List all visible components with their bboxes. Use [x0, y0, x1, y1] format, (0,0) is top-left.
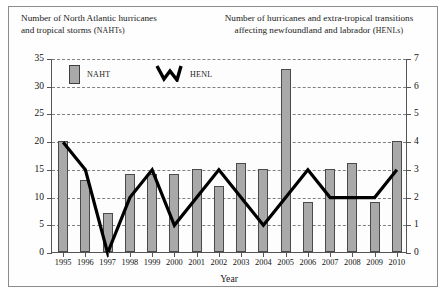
right-axis-tick-label: 5	[414, 109, 434, 119]
x-axis-tick	[219, 252, 220, 257]
left-axis-tick	[47, 198, 52, 199]
left-axis-tick-label: 0	[20, 248, 44, 258]
left-axis-tick-label: 35	[20, 54, 44, 64]
right-axis-title-line2: affecting newfoundland and labrador (	[235, 25, 376, 35]
x-axis-tick	[397, 252, 398, 257]
right-axis-tick	[406, 114, 411, 115]
x-axis-tick	[330, 252, 331, 257]
x-axis-tick	[375, 252, 376, 257]
chart-figure: Number of North Atlantic hurricanes and …	[8, 6, 438, 287]
right-axis-tick	[406, 59, 411, 60]
right-axis-tick	[406, 198, 411, 199]
right-axis-title: Number of hurricanes and extra-tropical …	[205, 13, 433, 36]
left-axis-tick-label: 5	[20, 220, 44, 230]
left-axis-tick-label: 20	[20, 137, 44, 147]
left-axis-tick-label: 30	[20, 82, 44, 92]
x-axis-title: Year	[51, 273, 407, 284]
left-axis-tick	[47, 114, 52, 115]
right-axis-tick	[406, 142, 411, 143]
right-axis-tick-label: 1	[414, 220, 434, 230]
right-axis-tick-label: 0	[414, 248, 434, 258]
left-axis-tick	[47, 253, 52, 254]
x-axis-tick	[85, 252, 86, 257]
right-axis-tick	[406, 170, 411, 171]
x-axis-tick-label: 2010	[382, 258, 412, 267]
left-axis-tick	[47, 225, 52, 226]
x-axis-tick	[286, 252, 287, 257]
x-axis-tick	[241, 252, 242, 257]
left-axis-title-abbr: NAHT	[97, 26, 119, 35]
right-axis-tick	[406, 225, 411, 226]
left-axis-title-line2: and tropical storms (	[21, 25, 97, 35]
left-axis-tick	[47, 142, 52, 143]
x-axis-tick	[63, 252, 64, 257]
legend-bar-swatch-icon	[69, 65, 80, 84]
x-axis-tick	[352, 252, 353, 257]
left-axis-tick	[47, 87, 52, 88]
x-axis-tick	[174, 252, 175, 257]
plot-inner: 05101520253035 01234567 1995199619971998…	[51, 59, 407, 253]
plot-area: 05101520253035 01234567 1995199619971998…	[51, 59, 407, 253]
left-axis-tick-label: 15	[20, 165, 44, 175]
legend-label-naht: NAHT	[87, 70, 110, 79]
right-axis-title-line1: Number of hurricanes and extra-tropical …	[225, 13, 414, 23]
right-axis-tick-label: 4	[414, 137, 434, 147]
chart-titles: Number of North Atlantic hurricanes and …	[9, 13, 437, 47]
x-axis-tick	[197, 252, 198, 257]
right-axis-tick	[406, 87, 411, 88]
legend-label-henl: HENL	[190, 70, 213, 79]
right-axis-tick-label: 7	[414, 54, 434, 64]
left-axis-tick	[47, 170, 52, 171]
right-axis-tick-label: 3	[414, 165, 434, 175]
legend-line-zigzag-icon	[155, 63, 183, 86]
left-axis-title: Number of North Atlantic hurricanes and …	[21, 13, 201, 36]
right-axis-title-abbr-tail: s)	[397, 26, 403, 35]
line-path	[63, 142, 397, 253]
left-axis-title-abbr-tail: s)	[119, 26, 125, 35]
legend-entry-naht: NAHT	[69, 63, 110, 85]
x-axis-tick	[152, 252, 153, 257]
left-axis-tick	[47, 59, 52, 60]
line-series	[52, 59, 408, 253]
x-axis-tick	[263, 252, 264, 257]
left-axis-title-line1: Number of North Atlantic hurricanes	[21, 13, 157, 23]
right-axis-tick	[406, 253, 411, 254]
x-axis-tick	[130, 252, 131, 257]
left-axis-tick-label: 10	[20, 193, 44, 203]
right-axis-tick-label: 2	[414, 193, 434, 203]
left-axis-tick-label: 25	[20, 109, 44, 119]
right-axis-tick-label: 6	[414, 82, 434, 92]
x-axis-tick	[108, 252, 109, 257]
right-axis-title-abbr: HENL	[376, 26, 398, 35]
x-axis-tick	[308, 252, 309, 257]
legend-entry-henl: HENL	[155, 63, 213, 85]
